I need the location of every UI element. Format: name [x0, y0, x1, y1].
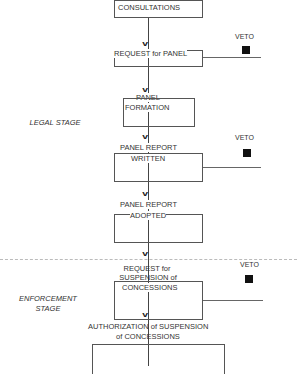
stage-label-enforcement: ENFORCEMENT STAGE — [8, 294, 88, 314]
arrow-down-icon: v — [142, 190, 148, 198]
arrow-down-icon: v — [142, 133, 148, 141]
stage-label-line: ENFORCEMENT — [8, 294, 88, 304]
arrow-down-icon: v — [142, 311, 148, 319]
arrow-down-icon: v — [142, 250, 148, 258]
veto-square-icon — [242, 46, 250, 54]
veto-branch-line — [203, 167, 261, 168]
veto-label: VETO — [240, 261, 259, 268]
step-request-suspension-label-1: REQUEST for — [122, 264, 172, 273]
step-authorization-label-1: AUTHORIZATION of SUSPENSION — [88, 322, 208, 331]
veto-square-icon — [245, 275, 253, 283]
veto-square-icon — [243, 149, 251, 157]
step-authorization-label-2: of CONCESSIONS — [110, 332, 186, 341]
veto-label: VETO — [235, 33, 254, 40]
veto-branch-line — [203, 57, 261, 58]
step-report-written-label-top: PANEL REPORT — [120, 143, 176, 152]
step-request-for-panel-label: REQUEST for PANEL — [114, 49, 187, 58]
stage-label-text: LEGAL STAGE — [30, 118, 81, 127]
step-consultations-label: CONSULTATIONS — [118, 3, 180, 12]
step-report-written-label: WRITTEN — [131, 154, 165, 163]
step-request-suspension-label-3: CONCESSIONS — [122, 283, 177, 292]
step-report-adopted-label-top: PANEL REPORT — [120, 200, 176, 209]
stage-divider — [0, 259, 297, 260]
step-panel-formation-label: FORMATION — [125, 103, 169, 112]
step-report-adopted-label: ADOPTED — [130, 211, 166, 220]
stage-label-line: STAGE — [8, 304, 88, 314]
veto-label: VETO — [235, 134, 254, 141]
veto-branch-line — [203, 300, 263, 301]
step-authorization — [92, 344, 225, 374]
arrow-down-icon: v — [142, 40, 148, 48]
stage-label-legal: LEGAL STAGE — [20, 118, 90, 128]
